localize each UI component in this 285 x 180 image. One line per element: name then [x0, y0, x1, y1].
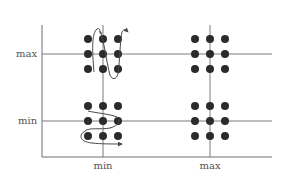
- dot: [114, 50, 122, 58]
- dot: [206, 65, 214, 73]
- dot: [221, 117, 229, 125]
- dot: [114, 102, 122, 110]
- dot: [191, 50, 199, 58]
- dot: [206, 102, 214, 110]
- dot: [84, 117, 92, 125]
- dot: [99, 117, 107, 125]
- dot: [206, 117, 214, 125]
- dot: [99, 132, 107, 140]
- dot: [221, 65, 229, 73]
- cluster-maxx-maxy: [191, 35, 229, 73]
- dot: [191, 132, 199, 140]
- dot: [99, 102, 107, 110]
- dot: [84, 102, 92, 110]
- dot: [84, 50, 92, 58]
- dot: [191, 117, 199, 125]
- y-tick-label-min: min: [18, 115, 38, 126]
- dot: [206, 35, 214, 43]
- cluster-minx-miny: [84, 102, 122, 140]
- y-tick-label-max: max: [16, 48, 37, 59]
- dot: [221, 102, 229, 110]
- dot: [221, 132, 229, 140]
- parameter-grid-diagram: max min min max: [0, 0, 285, 180]
- dot: [191, 65, 199, 73]
- dot: [206, 132, 214, 140]
- dot: [191, 35, 199, 43]
- dot: [84, 132, 92, 140]
- dot: [84, 35, 92, 43]
- dot: [221, 50, 229, 58]
- dot: [191, 102, 199, 110]
- dot: [206, 50, 214, 58]
- x-tick-label-min: min: [93, 160, 113, 171]
- x-tick-label-max: max: [199, 160, 220, 171]
- cluster-maxx-miny: [191, 102, 229, 140]
- dot: [114, 132, 122, 140]
- dot: [84, 65, 92, 73]
- dot: [221, 35, 229, 43]
- dot-clusters: [84, 35, 229, 140]
- dot: [99, 65, 107, 73]
